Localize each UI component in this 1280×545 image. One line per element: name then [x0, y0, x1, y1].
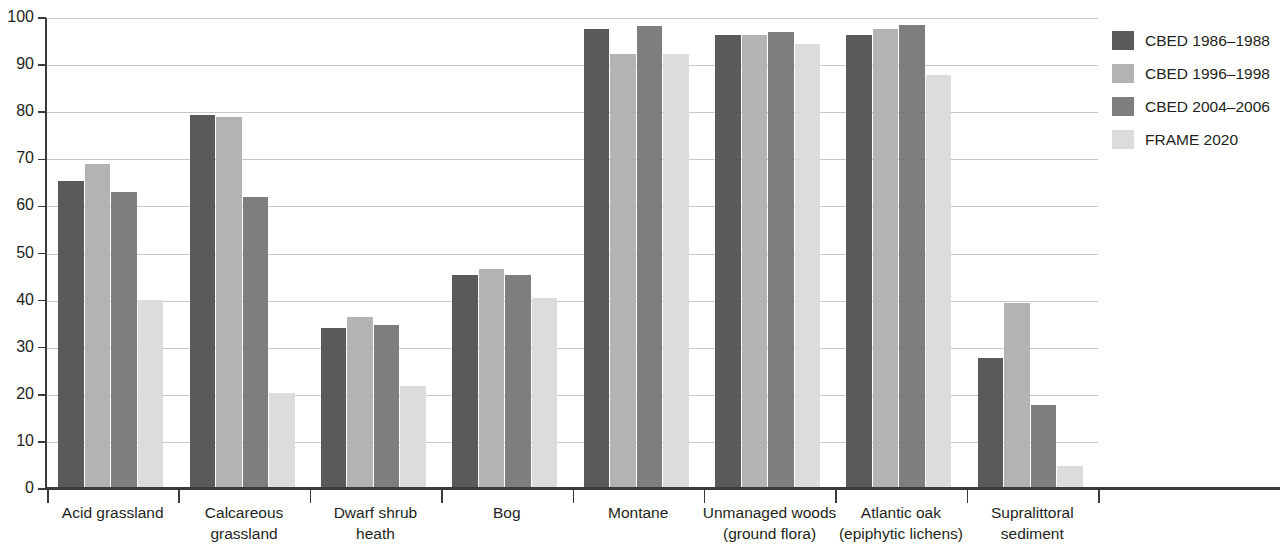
bar	[899, 25, 925, 489]
legend-swatch-icon	[1112, 64, 1134, 83]
legend-item[interactable]: CBED 2004–2006	[1112, 90, 1280, 123]
x-axis-tick-mark	[704, 490, 706, 503]
bar-chart: 0102030405060708090100 CBED 1986–1988CBE…	[0, 0, 1280, 545]
y-axis-tick-mark	[38, 300, 46, 302]
plot-area	[47, 18, 1098, 489]
y-axis-tick-label: 0	[0, 480, 34, 496]
bar	[138, 300, 164, 489]
y-axis-tick-mark	[38, 441, 46, 443]
bar	[1057, 466, 1083, 489]
bar	[873, 29, 899, 489]
legend-label: FRAME 2020	[1145, 131, 1238, 149]
bar	[1031, 405, 1057, 489]
bar-group	[846, 18, 951, 489]
bar	[400, 386, 426, 489]
legend-swatch-icon	[1112, 31, 1134, 50]
bar	[663, 54, 689, 489]
legend-item[interactable]: CBED 1996–1998	[1112, 57, 1280, 90]
y-axis-tick-label: 70	[0, 150, 34, 166]
bar	[610, 54, 636, 489]
legend-item[interactable]: FRAME 2020	[1112, 123, 1280, 156]
bar	[58, 181, 84, 490]
bar	[452, 275, 478, 489]
bar	[111, 192, 137, 489]
x-axis-category-label: Supralittoral sediment	[949, 503, 1116, 544]
bar-group	[321, 18, 426, 489]
bar	[374, 325, 400, 489]
bar-group	[584, 18, 689, 489]
legend-swatch-icon	[1112, 97, 1134, 116]
bar	[926, 75, 952, 489]
x-axis-tick-mark	[441, 490, 443, 503]
y-axis-tick-label: 60	[0, 197, 34, 213]
bar	[216, 117, 242, 489]
y-axis-tick-label: 20	[0, 386, 34, 402]
y-axis-tick-mark	[38, 206, 46, 208]
y-axis-tick-label: 80	[0, 103, 34, 119]
y-axis-tick-label: 10	[0, 433, 34, 449]
y-axis-tick-label: 40	[0, 292, 34, 308]
bar	[715, 35, 741, 489]
bar	[1004, 303, 1030, 489]
y-axis-tick-mark	[38, 64, 46, 66]
y-axis-tick-label: 50	[0, 245, 34, 261]
y-axis-tick-label: 90	[0, 56, 34, 72]
bar	[85, 164, 111, 489]
y-axis-tick-mark	[38, 253, 46, 255]
x-axis-line	[45, 487, 1280, 490]
bar-group	[978, 18, 1083, 489]
legend-item[interactable]: CBED 1986–1988	[1112, 24, 1280, 57]
legend-label: CBED 2004–2006	[1145, 98, 1270, 116]
legend: CBED 1986–1988CBED 1996–1998CBED 2004–20…	[1112, 24, 1280, 156]
bar	[637, 26, 663, 489]
y-axis-tick-mark	[38, 394, 46, 396]
bar-group	[452, 18, 557, 489]
legend-swatch-icon	[1112, 130, 1134, 149]
y-axis-tick-mark	[38, 111, 46, 113]
legend-label: CBED 1986–1988	[1145, 32, 1270, 50]
bar	[505, 275, 531, 489]
x-axis-tick-mark	[967, 490, 969, 503]
bar	[584, 29, 610, 489]
y-axis-tick-mark	[38, 17, 46, 19]
bar	[347, 317, 373, 489]
bar-group	[58, 18, 163, 489]
bar	[190, 115, 216, 489]
bar-group	[190, 18, 295, 489]
x-axis-tick-mark	[1098, 490, 1100, 503]
y-axis-tick-mark	[38, 159, 46, 161]
x-axis-tick-mark	[178, 490, 180, 503]
x-axis-tick-mark	[573, 490, 575, 503]
bar	[978, 358, 1004, 489]
bar	[768, 32, 794, 489]
bar	[795, 44, 821, 489]
y-axis-tick-label: 30	[0, 339, 34, 355]
bar	[846, 35, 872, 490]
bar-group	[715, 18, 820, 489]
legend-label: CBED 1996–1998	[1145, 65, 1270, 83]
bar	[321, 328, 347, 489]
y-axis-tick-mark	[38, 347, 46, 349]
x-axis-tick-mark	[47, 490, 49, 503]
bar	[532, 298, 558, 489]
bar	[742, 35, 768, 490]
bar	[479, 269, 505, 489]
x-axis-tick-mark	[835, 490, 837, 503]
x-axis-tick-mark	[310, 490, 312, 503]
y-axis-tick-label: 100	[0, 9, 34, 25]
bar	[243, 197, 269, 489]
bar	[269, 393, 295, 489]
